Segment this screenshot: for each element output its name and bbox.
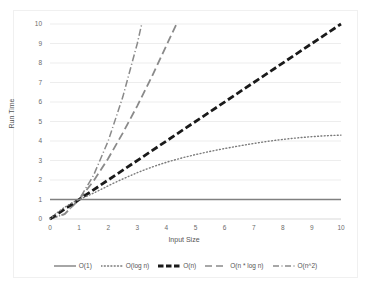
y-tick-3: 3 [28,158,42,165]
x-axis-title: Input Size [0,236,368,243]
legend-item-o-n-squared[interactable]: O(n^2) [273,262,318,270]
y-tick-6: 6 [28,99,42,106]
y-tick-10: 10 [28,21,42,28]
y-axis-title: Run Time [8,84,15,144]
x-tick-2: 2 [100,225,116,232]
legend-label-o-n: O(n) [183,263,196,270]
bold-dashed-line-icon [158,262,180,270]
solid-line-icon [54,262,76,270]
chart-container: 10 9 8 7 6 5 4 3 2 1 0 0 1 2 3 4 5 6 7 8… [0,0,368,290]
dashed-line-icon [205,262,227,270]
x-tick-3: 3 [129,225,145,232]
x-tick-5: 5 [188,225,204,232]
x-tick-8: 8 [275,225,291,232]
y-tick-7: 7 [28,80,42,87]
x-tick-4: 4 [158,225,174,232]
y-tick-9: 9 [28,41,42,48]
legend-item-o-n[interactable]: O(n) [158,262,196,270]
x-tick-1: 1 [71,225,87,232]
dash-dot-line-icon [273,262,295,270]
legend-label-o-1: O(1) [79,263,92,270]
legend-label-o-n-squared: O(n^2) [298,263,318,270]
y-tick-0: 0 [28,216,42,223]
x-tick-10: 10 [333,225,349,232]
y-tick-8: 8 [28,60,42,67]
y-tick-2: 2 [28,177,42,184]
x-tick-7: 7 [246,225,262,232]
chart-legend: O(1) O(log n) O(n) O(n * log n) O(n^2) [13,255,358,277]
y-tick-5: 5 [28,119,42,126]
x-tick-0: 0 [42,225,58,232]
y-tick-4: 4 [28,138,42,145]
legend-label-o-n-log-n: O(n * log n) [230,263,263,270]
legend-item-o-log-n[interactable]: O(log n) [101,262,149,270]
y-tick-1: 1 [28,197,42,204]
dotted-line-icon [101,262,123,270]
legend-item-o-n-log-n[interactable]: O(n * log n) [205,262,263,270]
x-tick-9: 9 [304,225,320,232]
x-tick-6: 6 [217,225,233,232]
legend-label-o-log-n: O(log n) [126,263,149,270]
legend-item-o-1[interactable]: O(1) [54,262,92,270]
